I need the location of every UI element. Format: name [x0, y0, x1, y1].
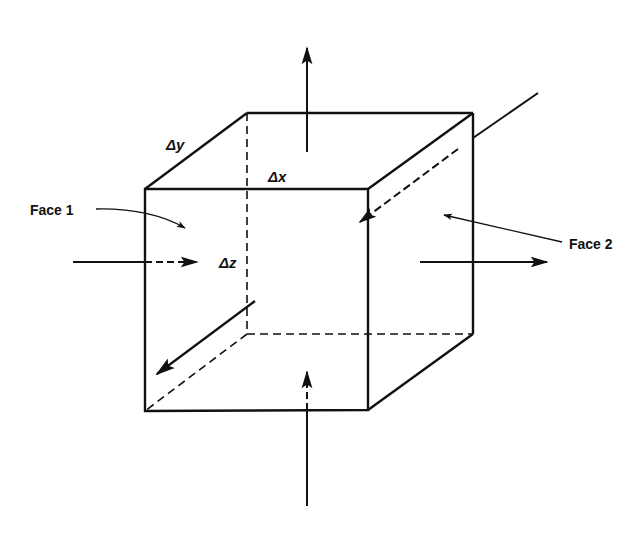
face2-label: Face 2	[569, 236, 613, 252]
front-face	[145, 189, 368, 411]
face1-label: Face 1	[30, 202, 74, 218]
leader-lines	[96, 209, 562, 242]
dy-label: Δy	[165, 136, 185, 153]
dz-label: Δz	[218, 254, 237, 271]
control-volume-diagram: Face 1 Face 2 Δy Δx Δz	[0, 0, 643, 539]
y-flux-out-arrow	[157, 301, 255, 374]
face2-leader	[444, 215, 562, 242]
face1-leader	[96, 209, 185, 228]
edge-bottom-right-diagonal	[368, 334, 473, 410]
edge-top-left-diagonal	[145, 113, 247, 189]
edge-top-right-diagonal	[368, 113, 473, 189]
y-flux-in-solid	[473, 93, 538, 138]
dx-label: Δx	[267, 168, 287, 185]
